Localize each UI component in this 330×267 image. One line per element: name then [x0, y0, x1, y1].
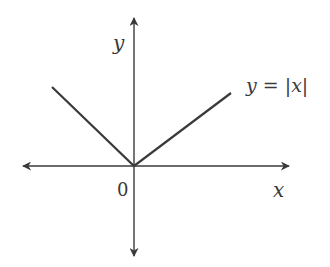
graph: y x 0 y = |x|: [0, 0, 330, 267]
x-axis-label: x: [273, 178, 284, 202]
curve-label: y = |x|: [245, 74, 308, 97]
y-axis-label: y: [112, 31, 125, 55]
origin-label: 0: [117, 179, 128, 200]
abs-curve: [52, 87, 231, 166]
